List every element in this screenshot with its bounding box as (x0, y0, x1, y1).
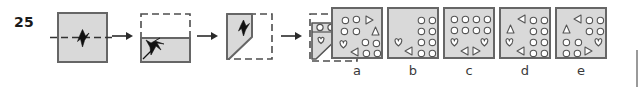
page-edge-rule (636, 50, 638, 87)
hole-circle (473, 27, 479, 33)
hole-circle (462, 16, 468, 22)
option-c-holes (445, 9, 497, 61)
hole-circle (597, 17, 603, 23)
option-b-label: b (387, 63, 439, 78)
option-a-holes (333, 9, 385, 61)
hole-circle (429, 17, 435, 23)
option-b[interactable]: b (387, 7, 439, 59)
hole-heart (340, 41, 347, 48)
hole-triangle-left (574, 15, 581, 23)
hole-circle (530, 17, 536, 23)
option-c[interactable]: c (443, 7, 495, 59)
option-e-panel[interactable] (555, 7, 607, 59)
hole-circle (563, 50, 569, 56)
hole-circle (530, 28, 536, 34)
hole-circle (541, 50, 547, 56)
option-c-label: c (443, 63, 495, 78)
option-e[interactable]: e (555, 7, 607, 59)
step-2-folded-in-half (137, 9, 195, 71)
option-a-panel[interactable] (331, 7, 383, 59)
option-d[interactable]: d (499, 7, 551, 59)
hole-triangle-left (351, 48, 358, 56)
hole-circle (484, 16, 490, 22)
hole-circle (362, 39, 368, 45)
option-b-holes (389, 9, 441, 61)
option-d-holes (501, 9, 553, 61)
hole-circle (586, 17, 592, 23)
hole-triangle-right (473, 47, 480, 55)
hole-triangle-right (585, 47, 592, 55)
hole-heart (595, 39, 602, 46)
hole-circle (342, 17, 348, 23)
hole-circle (484, 27, 490, 33)
hole-triangle-right (366, 16, 373, 24)
option-b-panel[interactable] (387, 7, 439, 59)
hole-circle (429, 28, 435, 34)
hole-circle (353, 28, 359, 34)
hole-circle (462, 27, 468, 33)
hole-circle (429, 39, 435, 45)
question-number: 25 (14, 14, 34, 30)
punched-hole-circle (317, 24, 323, 30)
option-e-holes (557, 9, 609, 61)
hole-circle (374, 50, 380, 56)
option-d-label: d (499, 63, 551, 78)
hole-circle (541, 28, 547, 34)
option-e-label: e (555, 63, 607, 78)
hole-heart (506, 39, 513, 46)
step-3-diagonal-fold (222, 9, 280, 71)
hole-circle (341, 28, 347, 34)
option-d-panel[interactable] (499, 7, 551, 59)
hole-triangle-left (518, 15, 525, 23)
hole-circle (353, 16, 359, 22)
hole-circle (597, 28, 603, 34)
arrow-1-icon (112, 30, 134, 42)
arrow-2-icon (197, 30, 219, 42)
hole-triangle-left (461, 47, 468, 55)
option-a-label: a (331, 63, 383, 78)
hole-circle (530, 50, 536, 56)
hole-heart (395, 39, 402, 46)
hole-circle (586, 28, 592, 34)
hole-circle (363, 50, 369, 56)
option-c-panel[interactable] (443, 7, 495, 59)
hole-circle (451, 27, 457, 33)
hole-circle (418, 17, 424, 23)
hole-triangle-up (507, 25, 514, 33)
hole-triangle-left (405, 47, 412, 55)
hole-heart (481, 39, 488, 46)
hole-circle (575, 39, 581, 45)
hole-circle (530, 39, 536, 45)
hole-circle (473, 16, 479, 22)
hole-triangle-up (372, 27, 379, 35)
hole-circle (451, 16, 457, 22)
step-1-unfolded-square (55, 9, 111, 71)
hole-circle (418, 50, 424, 56)
hole-heart (451, 39, 458, 46)
question-figure: 25 (0, 0, 642, 87)
hole-circle (418, 28, 424, 34)
hole-triangle-left (517, 47, 524, 55)
hole-circle (373, 40, 379, 46)
hole-circle (541, 17, 547, 23)
hole-circle (541, 39, 547, 45)
hole-circle (418, 39, 424, 45)
hole-circle (574, 50, 580, 56)
option-a[interactable]: a (331, 7, 383, 59)
hole-circle (429, 50, 435, 56)
arrow-3-icon (281, 30, 303, 42)
hole-circle (563, 39, 569, 45)
hole-triangle-up (563, 25, 570, 33)
